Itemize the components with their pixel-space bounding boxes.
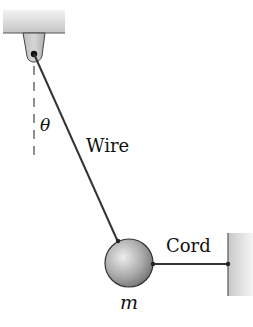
cord-attach-point-icon [151,262,155,266]
pendulum-diagram: θ Wire Cord m [0,0,253,327]
pivot-bracket [23,33,45,62]
wall-attach-point-icon [226,262,230,266]
angle-label: θ [40,115,50,135]
cord-label: Cord [166,235,211,256]
mass-label: m [120,291,138,313]
wall-support [228,233,253,296]
wire-label: Wire [86,135,129,156]
wire-attach-point-icon [116,239,120,243]
mass-ball [105,239,153,287]
ceiling-support [3,10,65,33]
